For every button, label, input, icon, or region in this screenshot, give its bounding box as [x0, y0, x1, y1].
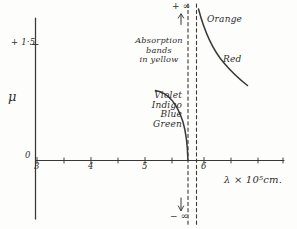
dispersion-curve-figure: + 1·5 μ 0 3 4 5 6 λ × 10⁵cm. + ∞ − ∞ Abs…	[0, 0, 297, 229]
x-tick-label-4: 4	[88, 162, 94, 171]
x-tick-label-3: 3	[34, 162, 40, 171]
label-red: Red	[223, 55, 241, 65]
spectrum-color-stack: Violet Indigo Blue Green	[122, 91, 182, 130]
minus-infinity-label: − ∞	[170, 212, 189, 222]
x-axis-label: λ × 10⁵cm.	[224, 175, 282, 186]
absorption-bands-note: Absorption bands in yellow	[133, 36, 185, 65]
label-green: Green	[122, 120, 182, 130]
x-tick-label-6: 6	[201, 162, 207, 171]
y-axis-label-mu: μ	[8, 90, 17, 104]
plus-infinity-arrow	[178, 14, 183, 25]
absorption-bands-line-3: in yellow	[133, 55, 185, 65]
label-orange: Orange	[207, 15, 242, 25]
y-tick-label-1-5: + 1·5	[11, 38, 35, 47]
x-tick-label-5: 5	[142, 162, 148, 171]
y-tick-label-origin: 0	[25, 151, 31, 160]
plus-infinity-label: + ∞	[172, 2, 191, 12]
minus-infinity-arrow	[178, 198, 183, 211]
